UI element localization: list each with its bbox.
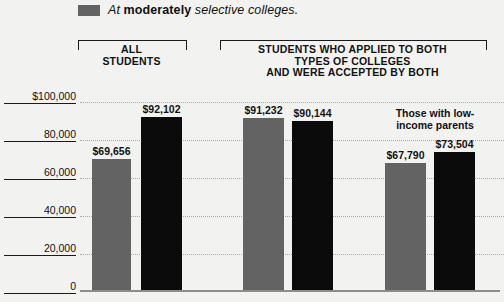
bar-label-applied-both-other: $90,144 bbox=[294, 107, 332, 119]
bar-all-students-moderately[interactable] bbox=[92, 159, 131, 290]
bar-label-applied-both-moderately: $91,232 bbox=[245, 104, 283, 116]
annotation-low-income-parents: Those with low- income parents bbox=[373, 108, 497, 131]
plot-area: $100,000 80,000 60,000 40,000 20,000 0 $… bbox=[0, 0, 504, 302]
bar-applied-both-other[interactable] bbox=[292, 121, 333, 290]
y-axis-tick-40000: 40,000 bbox=[4, 205, 76, 218]
bar-label-low-income-other: $73,504 bbox=[436, 138, 474, 150]
bar-label-all-students-moderately: $69,656 bbox=[93, 145, 131, 157]
y-axis-tick-60000: 60,000 bbox=[4, 167, 76, 180]
bar-label-low-income-moderately: $67,790 bbox=[387, 149, 425, 161]
y-axis-tick-0: 0 bbox=[4, 281, 76, 294]
y-axis-tick-80000: 80,000 bbox=[4, 129, 76, 142]
bar-low-income-other[interactable] bbox=[434, 152, 475, 290]
bar-low-income-moderately[interactable] bbox=[385, 163, 426, 290]
y-axis-tick-20000: 20,000 bbox=[4, 243, 76, 256]
bar-label-all-students-other: $92,102 bbox=[143, 103, 181, 115]
axis-baseline bbox=[80, 290, 500, 292]
bar-applied-both-moderately[interactable] bbox=[243, 118, 284, 290]
bar-all-students-other[interactable] bbox=[141, 117, 182, 290]
chart-root: At moderately selective colleges. ALL ST… bbox=[0, 0, 504, 302]
y-axis-tick-100000: $100,000 bbox=[4, 91, 76, 104]
